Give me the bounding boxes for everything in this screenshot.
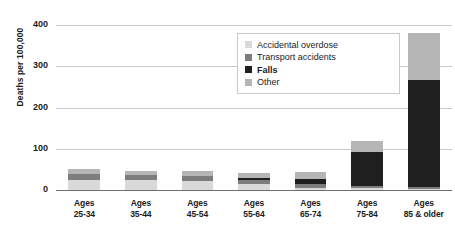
legend-label: Other [257,77,280,87]
bar-segment [408,33,440,80]
bar-segment [408,80,440,186]
legend-item: Transport accidents [245,51,393,63]
x-axis-labels: Ages25-34Ages35-44Ages45-54Ages55-64Ages… [56,198,452,232]
bar-segment [351,188,383,190]
legend-label: Falls [257,65,278,75]
bar-segment [68,180,100,190]
legend-label: Transport accidents [257,52,336,62]
legend: Accidental overdoseTransport accidentsFa… [237,33,400,94]
bar-segment [408,189,440,190]
legend-item: Falls [245,64,393,76]
bar-segment [351,141,383,152]
legend-item: Other [245,76,393,88]
x-axis-label: Ages85 & older [395,198,452,220]
x-axis-label: Ages45-54 [169,198,226,220]
x-axis-label: Ages35-44 [113,198,170,220]
y-tick-label-200: 200 [4,103,48,112]
axis-baseline [56,190,452,191]
bar-group [238,173,270,190]
bar-segment [295,172,327,179]
bar-group [351,141,383,190]
legend-swatch-icon [245,66,252,73]
bar-group [125,171,157,190]
y-tick-label-400: 400 [4,20,48,29]
y-tick-label-0: 0 [4,185,48,194]
bar-segment [238,184,270,190]
bar-segment [351,152,383,186]
bar-group [408,33,440,190]
x-axis-label: Ages65-74 [282,198,339,220]
legend-swatch-icon [245,41,252,48]
bar-segment [182,181,214,190]
legend-label: Accidental overdose [257,40,338,50]
x-axis-label: Ages55-64 [226,198,283,220]
legend-swatch-icon [245,79,252,86]
bar-group [68,169,100,190]
bar-segment [295,188,327,190]
bar-segment [125,180,157,190]
y-tick-label-100: 100 [4,144,48,153]
legend-item: Accidental overdose [245,39,393,51]
y-tick-label-300: 300 [4,61,48,70]
stacked-bar-chart: Deaths per 100,000 0100200300400 Ages25-… [0,0,455,234]
x-axis-label: Ages75-84 [339,198,396,220]
bar-group [295,172,327,190]
x-axis-label: Ages25-34 [56,198,113,220]
legend-swatch-icon [245,54,252,61]
bar-group [182,171,214,190]
